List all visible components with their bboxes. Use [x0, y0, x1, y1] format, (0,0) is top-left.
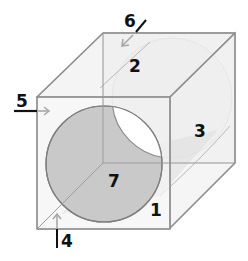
- cube-diagram: 6 2 5 3 7 1 4: [0, 0, 248, 261]
- label-5: 5: [16, 91, 28, 111]
- label-4: 4: [61, 231, 73, 251]
- label-2: 2: [129, 56, 141, 76]
- label-3: 3: [194, 121, 206, 141]
- label-1: 1: [150, 200, 162, 220]
- label-7: 7: [108, 171, 120, 191]
- label-6: 6: [124, 11, 136, 31]
